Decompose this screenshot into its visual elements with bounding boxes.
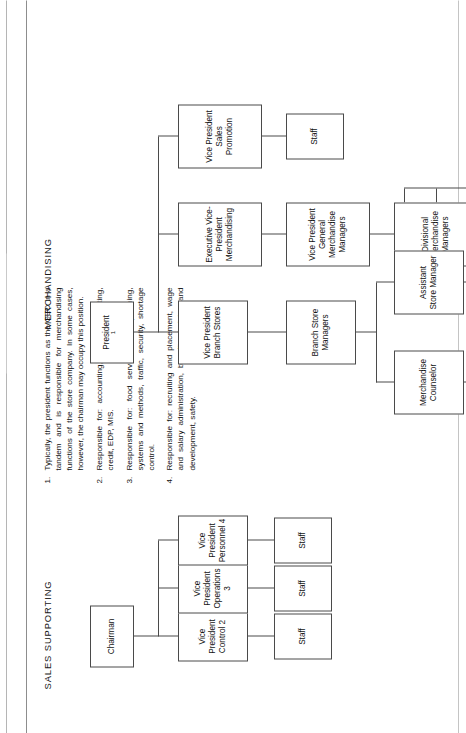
connector-bsm-down <box>356 331 376 332</box>
box-staff-personnel[interactable]: Staff <box>274 517 332 563</box>
box-divisional-label-1: Divisional <box>421 216 431 251</box>
box-vp-personnel-label-2: Personnel 4 <box>218 518 228 562</box>
connector-gmm-divisional <box>370 233 394 234</box>
box-vp-sales-promotion-label-2: Sales <box>215 126 225 146</box>
footnote-1-number: 1. <box>42 476 53 483</box>
box-vp-general-merchandise-managers[interactable]: Vice President General Merchandise Manag… <box>286 202 370 266</box>
box-vp-operations-label-2: Operations 3 <box>213 566 233 610</box>
connector-bsm-bus <box>376 282 377 382</box>
box-merchandise-counselor-label-2: Counselor <box>429 363 439 400</box>
box-branch-store-managers-label-2: Managers <box>321 314 331 350</box>
box-staff-operations-label: Staff <box>298 580 308 597</box>
box-vp-personnel[interactable]: Vice President Personnel 4 <box>178 515 248 565</box>
connector-drop-assistant-store-manager <box>376 281 394 282</box>
connector-drop-vp-personnel <box>158 539 178 540</box>
box-staff-personnel-label: Staff <box>298 532 308 549</box>
connector-vp-operations-staff <box>248 587 274 588</box>
connector-evp-gmm <box>262 233 286 234</box>
box-vp-branch-stores[interactable]: Vice President Branch Stores <box>178 300 248 364</box>
footnote-2-number: 2. <box>94 476 105 483</box>
box-staff-sales-promotion[interactable]: Staff <box>286 113 344 159</box>
connector-drop-merchandise-counselor <box>376 381 394 382</box>
box-vp-branch-stores-label-2: Branch Stores <box>213 306 223 358</box>
box-staff-sales-promotion-label: Staff <box>310 128 320 145</box>
box-assistant-store-manager[interactable]: Assistant Store Manager <box>394 250 464 314</box>
box-staff-control-label: Staff <box>298 628 308 645</box>
box-evp-merchandising-label-3: Merchandising <box>225 207 235 260</box>
connector-drop-vp-branch-stores <box>158 331 178 332</box>
connector-chairman-down <box>134 635 158 636</box>
section-caption-sales-supporting: SALES SUPPORTING <box>42 580 53 689</box>
box-vp-control[interactable]: Vice President Control 2 <box>178 611 248 661</box>
box-vp-sales-promotion-label-1: Vice President <box>205 110 215 163</box>
page-rule-second <box>26 0 27 733</box>
box-vp-gmm-label-4: Managers <box>338 216 348 252</box>
box-branch-store-managers[interactable]: Branch Store Managers <box>286 300 356 364</box>
footnote-3-number: 3. <box>124 476 135 483</box>
connector-vp-branch-stores-bsm <box>248 331 286 332</box>
box-chairman[interactable]: Chairman <box>90 605 134 667</box>
connector-divisional-to-counselor <box>404 188 405 202</box>
connector-divisional-out <box>436 188 437 202</box>
connector-drop-evp-merchandising <box>158 233 178 234</box>
connector-president-down <box>134 331 158 332</box>
box-merchandise-counselor-label-1: Merchandise <box>419 359 429 406</box>
box-chairman-label: Chairman <box>107 618 117 654</box>
box-vp-gmm-label-3: Merchandise <box>328 211 338 258</box>
box-evp-merchandising-label-1: Executive Vice- <box>205 206 215 262</box>
box-assistant-store-manager-label-1: Assistant <box>419 265 429 298</box>
box-vp-sales-promotion-label-3: Promotion <box>225 117 235 154</box>
box-vp-personnel-label-1: Vice President <box>198 518 218 562</box>
connector-sales-promotion-staff <box>262 135 286 136</box>
box-divisional-label-3: Managers <box>441 216 451 252</box>
box-vp-sales-promotion[interactable]: Vice President Sales Promotion <box>178 104 262 168</box>
box-president[interactable]: President1 <box>90 301 134 363</box>
box-vp-control-label-1: Vice President <box>198 614 218 658</box>
box-president-footnote-marker: 1 <box>110 330 116 333</box>
box-vp-gmm-label-1: Vice President <box>308 208 318 261</box>
chart-canvas: SALES SUPPORTING MERCHANDISING Chairman … <box>0 0 466 733</box>
footnote-1: 1. Typically, the president functions as… <box>42 287 86 483</box>
box-president-label: President1 <box>102 315 122 350</box>
connector-drop-vp-sales-promotion <box>158 135 178 136</box>
box-merchandise-counselor[interactable]: Merchandise Counselor <box>394 350 464 414</box>
box-vp-branch-stores-label-1: Vice President <box>203 306 213 359</box>
box-staff-control[interactable]: Staff <box>274 613 332 659</box>
connector-divisional-bus <box>404 187 466 188</box>
box-evp-merchandising[interactable]: Executive Vice- President Merchandising <box>178 202 262 266</box>
box-vp-operations[interactable]: Vice President Operations 3 <box>178 563 248 613</box>
connector-drop-vp-operations <box>158 587 178 588</box>
box-vp-gmm-label-2: General <box>318 219 328 248</box>
connector-vp-personnel-staff <box>248 539 274 540</box>
box-evp-merchandising-label-2: President <box>215 217 225 252</box>
box-staff-operations[interactable]: Staff <box>274 565 332 611</box>
footnote-1-text: Typically, the president functions as th… <box>42 287 86 470</box>
box-vp-operations-label-1: Vice President <box>193 566 213 610</box>
box-branch-store-managers-label-1: Branch Store <box>311 308 321 356</box>
footnote-4-number: 4. <box>164 476 175 483</box>
box-assistant-store-manager-label-2: Store Manager <box>429 255 439 309</box>
page-rule-dashed <box>6 253 7 373</box>
connector-vp-control-staff <box>248 635 274 636</box>
connector-drop-vp-control <box>158 635 178 636</box>
box-vp-control-label-2: Control 2 <box>218 619 228 652</box>
